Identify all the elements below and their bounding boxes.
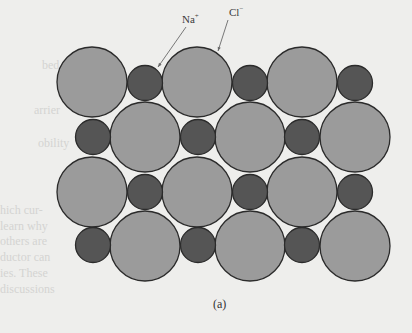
sodium-ion (285, 120, 320, 155)
sodium-ion (338, 66, 373, 101)
chloride-ion (162, 157, 232, 227)
chloride-ion (162, 47, 232, 117)
arrowhead-icon (158, 63, 162, 67)
sodium-symbol: Na (182, 13, 195, 25)
figure-caption: (a) (213, 297, 226, 312)
chloride-charge: − (239, 5, 243, 13)
sodium-label: Na+ (182, 12, 199, 25)
sodium-ion (181, 228, 216, 263)
chloride-ion (320, 211, 390, 281)
sodium-charge: + (195, 12, 199, 20)
sodium-ion (76, 120, 111, 155)
chloride-symbol: Cl (229, 6, 239, 18)
sodium-ion (285, 228, 320, 263)
sodium-ion (233, 175, 268, 210)
chloride-ion (267, 47, 337, 117)
chloride-ion (57, 47, 127, 117)
sodium-ion (338, 175, 373, 210)
sodium-ion (128, 175, 163, 210)
chloride-ion (215, 102, 285, 172)
arrowhead-icon (218, 47, 221, 51)
chloride-ion (110, 102, 180, 172)
chloride-label: Cl− (229, 5, 243, 18)
sodium-ion (181, 120, 216, 155)
chloride-leader-line (218, 20, 228, 51)
sodium-ion (76, 228, 111, 263)
chloride-ion (215, 211, 285, 281)
chloride-ion (267, 157, 337, 227)
chloride-ion (320, 102, 390, 172)
sodium-ion (233, 66, 268, 101)
chloride-ion (110, 211, 180, 281)
chloride-ion (57, 157, 127, 227)
sodium-ion (128, 66, 163, 101)
nacl-lattice-diagram (0, 0, 412, 333)
